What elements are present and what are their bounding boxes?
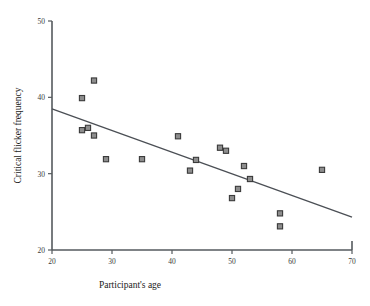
data-point-10	[217, 145, 222, 150]
data-point-1	[91, 78, 96, 83]
axes: 20304050203040506070	[38, 17, 357, 266]
data-point-12	[229, 195, 234, 200]
x-tick-label-50: 50	[228, 257, 236, 266]
data-point-18	[319, 167, 324, 172]
scatter-plot-figure: 20304050203040506070 Participant's ageCr…	[0, 0, 370, 306]
x-tick-label-40: 40	[168, 257, 176, 266]
data-point-2	[79, 128, 84, 133]
data-point-15	[247, 176, 252, 181]
y-axis-title: Critical flicker frequency	[13, 87, 23, 183]
data-point-7	[175, 134, 180, 139]
x-tick-label-70: 70	[348, 257, 356, 266]
data-point-3	[85, 125, 90, 130]
x-tick-label-20: 20	[48, 257, 56, 266]
x-tick-label-30: 30	[108, 257, 116, 266]
data-point-5	[103, 157, 108, 162]
axis-labels: Participant's ageCritical flicker freque…	[13, 87, 161, 290]
data-point-6	[139, 157, 144, 162]
data-point-0	[79, 95, 84, 100]
x-axis-title: Participant's age	[99, 280, 161, 290]
plot-canvas: 20304050203040506070 Participant's ageCr…	[0, 0, 370, 306]
regression-line	[52, 109, 352, 217]
data-point-16	[277, 211, 282, 216]
data-points	[79, 78, 324, 229]
data-point-9	[193, 157, 198, 162]
data-point-17	[277, 224, 282, 229]
data-point-14	[241, 163, 246, 168]
y-tick-label-50: 50	[38, 17, 46, 26]
x-tick-label-60: 60	[288, 257, 296, 266]
y-tick-label-20: 20	[38, 246, 46, 255]
data-point-8	[187, 168, 192, 173]
y-tick-label-30: 30	[38, 170, 46, 179]
data-point-13	[235, 186, 240, 191]
y-tick-label-40: 40	[38, 93, 46, 102]
data-point-11	[223, 148, 228, 153]
trend-line	[52, 109, 352, 217]
data-point-4	[91, 133, 96, 138]
